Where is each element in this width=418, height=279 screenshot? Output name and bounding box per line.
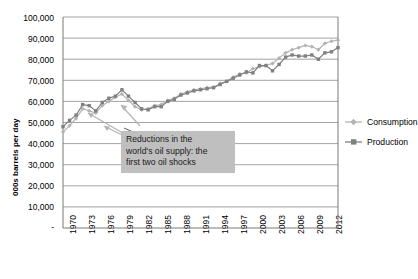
data-point-marker bbox=[232, 76, 235, 79]
data-point-marker bbox=[146, 108, 149, 111]
data-point-marker bbox=[251, 71, 254, 74]
data-point-marker bbox=[173, 98, 176, 101]
data-point-marker bbox=[317, 58, 320, 61]
data-point-marker bbox=[140, 107, 143, 110]
data-point-marker bbox=[61, 125, 64, 128]
data-point-marker bbox=[68, 119, 71, 122]
data-point-marker bbox=[160, 105, 163, 108]
series-line-consumption bbox=[63, 40, 338, 132]
data-point-marker bbox=[297, 54, 300, 57]
data-point-marker bbox=[133, 101, 136, 104]
data-point-marker bbox=[192, 89, 195, 92]
data-point-marker bbox=[310, 44, 314, 48]
legend-item-production[interactable]: Production bbox=[367, 137, 408, 147]
data-point-marker bbox=[297, 45, 301, 49]
data-point-marker bbox=[74, 113, 77, 116]
data-point-marker bbox=[336, 38, 340, 42]
annotation-line: first two oil shocks bbox=[126, 157, 230, 169]
data-point-marker bbox=[107, 97, 110, 100]
gridlines bbox=[63, 17, 338, 207]
data-point-marker bbox=[179, 93, 182, 96]
data-point-marker bbox=[114, 94, 117, 97]
data-point-marker bbox=[310, 53, 313, 56]
data-point-marker bbox=[81, 103, 84, 106]
data-point-marker bbox=[264, 64, 267, 67]
data-point-marker bbox=[186, 91, 189, 94]
data-point-marker bbox=[205, 87, 208, 90]
data-point-marker bbox=[290, 48, 294, 52]
data-point-marker bbox=[225, 80, 228, 83]
data-point-marker bbox=[277, 63, 280, 66]
data-point-marker bbox=[290, 53, 293, 56]
data-point-marker bbox=[212, 86, 215, 89]
data-point-marker bbox=[329, 39, 333, 43]
annotation-line: world's oil supply: the bbox=[126, 146, 230, 158]
data-point-marker bbox=[87, 104, 90, 107]
data-point-marker bbox=[238, 73, 241, 76]
annotation-callout: Reductions in the world's oil supply: th… bbox=[121, 131, 235, 173]
data-point-marker bbox=[284, 55, 287, 58]
data-point-marker bbox=[120, 88, 123, 91]
data-point-marker bbox=[153, 105, 156, 108]
data-point-marker bbox=[330, 50, 333, 53]
data-point-marker bbox=[336, 46, 339, 49]
annotation-line: Reductions in the bbox=[126, 134, 230, 146]
data-point-marker bbox=[258, 64, 261, 67]
data-point-marker bbox=[101, 101, 104, 104]
data-point-marker bbox=[304, 54, 307, 57]
data-series-group bbox=[61, 38, 340, 134]
data-point-marker bbox=[271, 69, 274, 72]
data-point-marker bbox=[245, 70, 248, 73]
data-point-marker bbox=[87, 109, 91, 113]
legend-item-consumption[interactable]: Consumption bbox=[367, 117, 418, 127]
data-point-marker bbox=[323, 51, 326, 54]
data-point-marker bbox=[218, 83, 221, 86]
data-point-marker bbox=[199, 88, 202, 91]
data-point-marker bbox=[127, 94, 130, 97]
data-point-marker bbox=[303, 43, 307, 47]
data-point-marker bbox=[94, 109, 97, 112]
data-point-marker bbox=[166, 100, 169, 103]
